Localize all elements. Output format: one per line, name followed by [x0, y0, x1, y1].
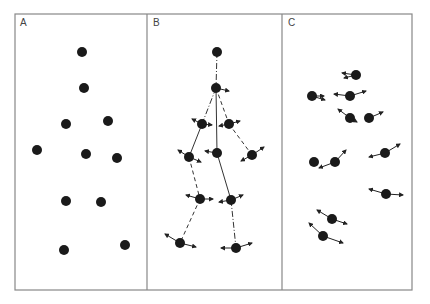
panel-a-label: A [20, 17, 27, 28]
edge-dashdot [216, 52, 217, 88]
node [77, 47, 87, 57]
node [61, 196, 71, 206]
node [59, 245, 69, 255]
node [96, 197, 106, 207]
node [112, 153, 122, 163]
node [307, 91, 317, 101]
panel-b [165, 47, 264, 253]
node [79, 83, 89, 93]
node [364, 113, 374, 123]
node [175, 238, 185, 248]
node [231, 243, 241, 253]
edge-dashed [189, 157, 200, 199]
node [345, 113, 355, 123]
node [318, 231, 328, 241]
node [103, 116, 113, 126]
edge-dashdot [231, 200, 236, 248]
node [380, 148, 390, 158]
node [212, 47, 222, 57]
panel-b-label: B [153, 17, 160, 28]
edge-solid [189, 124, 202, 157]
node [327, 214, 337, 224]
node [381, 189, 391, 199]
node [226, 195, 236, 205]
edge-dashed [216, 88, 229, 124]
node [247, 150, 257, 160]
node [351, 70, 361, 80]
node [309, 157, 319, 167]
node [195, 194, 205, 204]
panel-c [307, 70, 403, 243]
node [120, 240, 130, 250]
node [345, 91, 355, 101]
node [184, 152, 194, 162]
edge-dashed [180, 199, 200, 243]
node [32, 145, 42, 155]
panel-a [32, 47, 130, 255]
figure-canvas [0, 0, 430, 304]
node [197, 119, 207, 129]
node [330, 157, 340, 167]
node [212, 148, 222, 158]
node [211, 83, 221, 93]
panel-c-label: C [288, 17, 295, 28]
edge-solid [216, 88, 217, 153]
edge-dashed [229, 124, 252, 155]
node [224, 119, 234, 129]
node [61, 119, 71, 129]
edge-dashdot [202, 88, 216, 124]
edge-solid [217, 153, 231, 200]
node [81, 149, 91, 159]
